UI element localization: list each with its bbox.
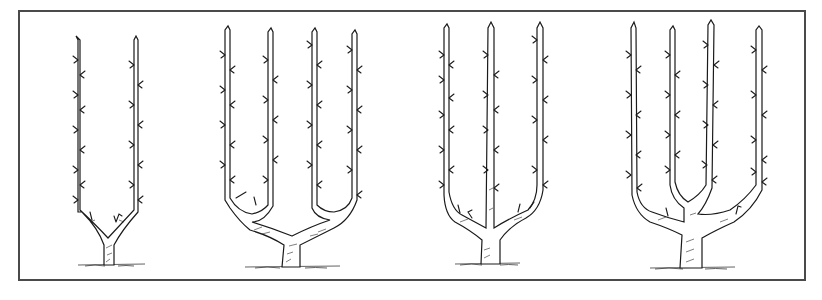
tree-quadruple-arm — [626, 20, 767, 269]
tree-triple-arm — [439, 22, 548, 265]
tree-single-u — [73, 36, 145, 266]
espalier-illustration — [0, 0, 822, 300]
tree-double-u — [220, 26, 362, 268]
